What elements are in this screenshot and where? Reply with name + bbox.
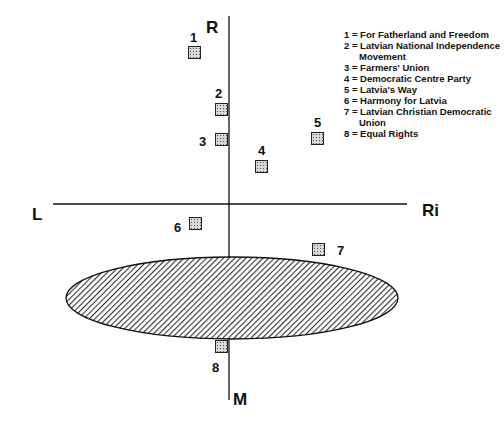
legend-item-3: 3 = Farmers' Union [344,62,500,73]
party-number-7: 7 [337,243,344,258]
legend-item-7-cont: Union [344,117,500,128]
party-number-2: 2 [215,86,222,101]
legend-item-2: 2 = Latvian National Independence [344,40,500,51]
party-marker-8 [215,340,228,353]
party-marker-4 [255,160,268,173]
hatched-ellipse [66,257,398,339]
legend-item-8: 8 = Equal Rights [344,128,500,139]
party-number-4: 4 [258,143,265,158]
axis-label-left: L [32,205,42,225]
legend: 1 = For Fatherland and Freedom 2 = Latvi… [344,29,500,139]
party-marker-7 [312,243,325,256]
party-marker-6 [189,217,202,230]
legend-item-7: 7 = Latvian Christian Democratic [344,106,500,117]
party-marker-2 [215,103,228,116]
party-number-6: 6 [174,220,181,235]
party-number-5: 5 [314,115,321,130]
party-number-3: 3 [199,134,206,149]
legend-item-2-cont: Movement [344,51,500,62]
legend-item-5: 5 = Latvia's Way [344,84,500,95]
legend-item-4: 4 = Democratic Centre Party [344,73,500,84]
axis-label-bottom: M [233,390,247,410]
axis-label-top: R [206,18,218,38]
party-marker-3 [215,133,228,146]
party-number-1: 1 [190,30,197,45]
party-marker-1 [188,46,201,59]
party-marker-5 [311,132,324,145]
party-number-8: 8 [212,360,219,375]
legend-item-6: 6 = Harmony for Latvia [344,95,500,106]
legend-item-1: 1 = For Fatherland and Freedom [344,29,500,40]
axis-label-right: Ri [422,201,439,221]
